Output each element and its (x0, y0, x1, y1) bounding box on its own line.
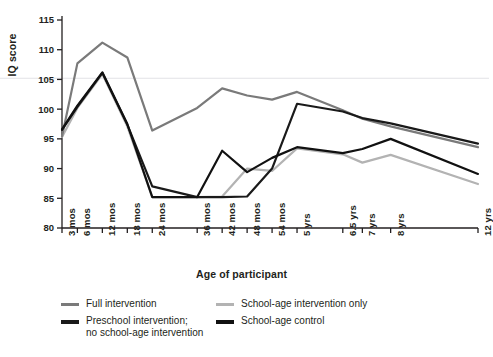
svg-text:110: 110 (39, 44, 54, 55)
legend-item[interactable]: School-age intervention only (216, 298, 367, 310)
x-tick-label: 6.5 yrs (347, 205, 358, 236)
chart-legend: Full interventionPreschool intervention;… (0, 298, 489, 357)
legend-swatch-icon (61, 320, 79, 324)
legend-item[interactable]: School-age control (216, 315, 324, 327)
x-tick-label: 48 mos (251, 203, 262, 236)
x-tick-label: 12 mos (106, 203, 117, 236)
x-tick-label: 36 mos (201, 203, 212, 236)
legend-swatch-icon (216, 320, 234, 324)
svg-text:80: 80 (43, 222, 54, 233)
x-tick-label: 18 mos (131, 203, 142, 236)
y-axis-title: IQ score (6, 15, 18, 95)
legend-label: School-age intervention only (241, 298, 367, 310)
x-tick-label: 24 mos (156, 203, 167, 236)
svg-text:100: 100 (38, 104, 54, 115)
x-tick-label: 8 yrs (395, 213, 406, 236)
svg-text:105: 105 (38, 74, 55, 85)
svg-text:115: 115 (39, 14, 55, 25)
x-axis-title: Age of participant (196, 268, 287, 280)
legend-swatch-icon (61, 303, 79, 306)
legend-item[interactable]: Full intervention (61, 298, 157, 310)
x-tick-label: 5 yrs (301, 213, 312, 236)
legend-label: Preschool intervention; no school-age in… (86, 315, 203, 338)
legend-label: School-age control (241, 315, 324, 327)
x-tick-label: 42 mos (226, 203, 237, 236)
legend-label: Full intervention (86, 298, 157, 310)
x-tick-label: 3 mos (66, 208, 77, 236)
svg-text:85: 85 (43, 193, 54, 204)
x-tick-label: 54 mos (276, 203, 287, 236)
svg-text:90: 90 (43, 163, 54, 174)
line-chart: 80859095100105110115 (0, 0, 489, 300)
x-tick-label: 12 yrs (482, 208, 493, 236)
svg-text:95: 95 (43, 133, 54, 144)
x-tick-label: 7 yrs (366, 213, 377, 236)
legend-swatch-icon (216, 303, 234, 306)
legend-item[interactable]: Preschool intervention; no school-age in… (61, 315, 203, 338)
plot-area: 80859095100105110115 IQ score Age of par… (0, 0, 489, 300)
x-tick-label: 6 mos (81, 208, 92, 236)
